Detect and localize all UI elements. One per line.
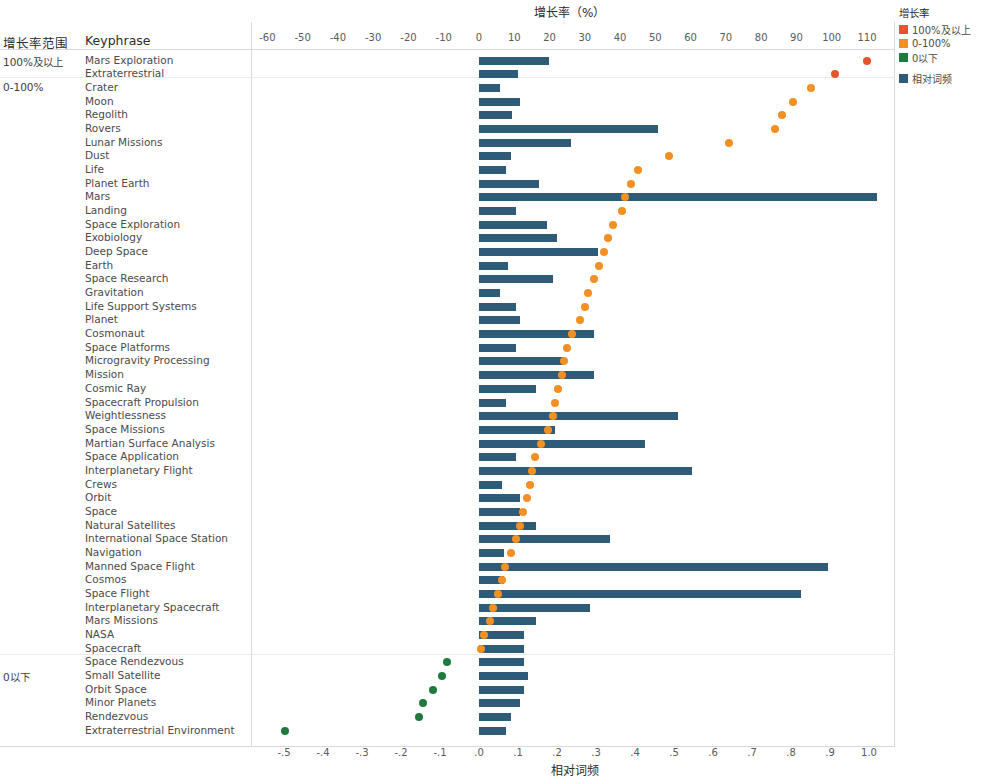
growth-rate-dot[interactable] <box>778 111 786 119</box>
bar[interactable] <box>479 125 658 133</box>
keyphrase-label[interactable]: Planet Earth <box>85 177 149 189</box>
keyphrase-label[interactable]: Martian Surface Analysis <box>85 437 215 449</box>
growth-rate-dot[interactable] <box>443 658 451 666</box>
growth-rate-dot[interactable] <box>415 713 423 721</box>
bar[interactable] <box>479 645 524 653</box>
keyphrase-label[interactable]: Spacecraft Propulsion <box>85 396 199 408</box>
bar[interactable] <box>479 207 516 215</box>
bar[interactable] <box>479 686 524 694</box>
growth-rate-dot[interactable] <box>489 604 497 612</box>
bar[interactable] <box>479 672 528 680</box>
keyphrase-label[interactable]: Interplanetary Flight <box>85 464 193 476</box>
legend-item[interactable]: 0-100% <box>899 37 985 50</box>
keyphrase-label[interactable]: Cosmonaut <box>85 327 145 339</box>
bar[interactable] <box>479 316 520 324</box>
bar[interactable] <box>479 590 801 598</box>
bar[interactable] <box>479 563 828 571</box>
keyphrase-label[interactable]: Spacecraft <box>85 642 141 654</box>
growth-rate-dot[interactable] <box>531 453 539 461</box>
keyphrase-label[interactable]: Exobiology <box>85 231 142 243</box>
keyphrase-label[interactable]: International Space Station <box>85 532 228 544</box>
growth-rate-dot[interactable] <box>477 645 485 653</box>
growth-rate-dot[interactable] <box>634 166 642 174</box>
bar[interactable] <box>479 98 520 106</box>
bar[interactable] <box>479 357 563 365</box>
keyphrase-label[interactable]: Natural Satellites <box>85 519 176 531</box>
growth-rate-dot[interactable] <box>618 207 626 215</box>
keyphrase-label[interactable]: Cosmos <box>85 573 126 585</box>
growth-rate-dot[interactable] <box>544 426 552 434</box>
legend-item[interactable]: 100%及以上 <box>899 23 985 36</box>
keyphrase-label[interactable]: Space Research <box>85 272 169 284</box>
bar[interactable] <box>479 234 557 242</box>
growth-rate-dot[interactable] <box>516 522 524 530</box>
keyphrase-label[interactable]: Cosmic Ray <box>85 382 146 394</box>
keyphrase-label[interactable]: Dust <box>85 149 109 161</box>
growth-rate-dot[interactable] <box>419 699 427 707</box>
growth-rate-dot[interactable] <box>576 316 584 324</box>
growth-rate-dot[interactable] <box>486 617 494 625</box>
keyphrase-label[interactable]: Mission <box>85 368 124 380</box>
bar[interactable] <box>479 467 692 475</box>
keyphrase-label[interactable]: Navigation <box>85 546 142 558</box>
growth-rate-dot[interactable] <box>528 467 536 475</box>
keyphrase-label[interactable]: Space Rendezvous <box>85 655 184 667</box>
growth-rate-dot[interactable] <box>807 84 815 92</box>
bar[interactable] <box>479 453 516 461</box>
keyphrase-label[interactable]: Life <box>85 163 104 175</box>
keyphrase-label[interactable]: Mars Exploration <box>85 54 173 66</box>
bar[interactable] <box>479 330 594 338</box>
growth-rate-dot[interactable] <box>600 248 608 256</box>
bar[interactable] <box>479 262 508 270</box>
keyphrase-label[interactable]: NASA <box>85 628 114 640</box>
bar[interactable] <box>479 221 547 229</box>
bar[interactable] <box>479 399 506 407</box>
legend-item[interactable]: 0以下 <box>899 51 985 64</box>
keyphrase-label[interactable]: Extraterrestrial Environment <box>85 724 235 736</box>
keyphrase-label[interactable]: Planet <box>85 313 118 325</box>
keyphrase-label[interactable]: Mars <box>85 190 110 202</box>
growth-rate-dot[interactable] <box>519 508 527 516</box>
bar[interactable] <box>479 385 536 393</box>
growth-rate-dot[interactable] <box>558 371 566 379</box>
keyphrase-label[interactable]: Earth <box>85 259 113 271</box>
keyphrase-label[interactable]: Space Application <box>85 450 179 462</box>
keyphrase-label[interactable]: Space Platforms <box>85 341 170 353</box>
keyphrase-label[interactable]: Rendezvous <box>85 710 148 722</box>
keyphrase-label[interactable]: Space Missions <box>85 423 165 435</box>
keyphrase-label[interactable]: Extraterrestrial <box>85 67 164 79</box>
keyphrase-label[interactable]: Crews <box>85 478 117 490</box>
bar[interactable] <box>479 522 536 530</box>
growth-rate-dot[interactable] <box>831 70 839 78</box>
growth-rate-dot[interactable] <box>281 727 289 735</box>
growth-rate-dot[interactable] <box>604 234 612 242</box>
growth-rate-dot[interactable] <box>554 385 562 393</box>
bar[interactable] <box>479 70 518 78</box>
growth-rate-dot[interactable] <box>498 576 506 584</box>
keyphrase-label[interactable]: Interplanetary Spacecraft <box>85 601 219 613</box>
bar[interactable] <box>479 727 506 735</box>
keyphrase-label[interactable]: Manned Space Flight <box>85 560 195 572</box>
growth-rate-dot[interactable] <box>725 139 733 147</box>
keyphrase-label[interactable]: Deep Space <box>85 245 148 257</box>
bar[interactable] <box>479 289 500 297</box>
keyphrase-label[interactable]: Space Flight <box>85 587 150 599</box>
keyphrase-label[interactable]: Landing <box>85 204 127 216</box>
bar[interactable] <box>479 371 594 379</box>
keyphrase-label[interactable]: Minor Planets <box>85 696 156 708</box>
growth-rate-dot[interactable] <box>609 221 617 229</box>
keyphrase-label[interactable]: Gravitation <box>85 286 144 298</box>
bar[interactable] <box>479 166 506 174</box>
keyphrase-label[interactable]: Lunar Missions <box>85 136 162 148</box>
keyphrase-label[interactable]: Orbit Space <box>85 683 147 695</box>
bar[interactable] <box>479 481 502 489</box>
growth-rate-dot[interactable] <box>665 152 673 160</box>
growth-rate-dot[interactable] <box>551 399 559 407</box>
keyphrase-label[interactable]: Space Exploration <box>85 218 180 230</box>
keyphrase-label[interactable]: Space <box>85 505 117 517</box>
growth-rate-dot[interactable] <box>595 262 603 270</box>
growth-rate-dot[interactable] <box>563 344 571 352</box>
growth-rate-dot[interactable] <box>507 549 515 557</box>
bar[interactable] <box>479 57 549 65</box>
bar[interactable] <box>479 152 511 160</box>
